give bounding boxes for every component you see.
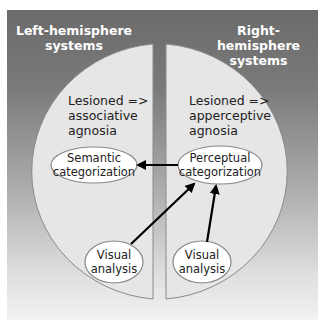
left-hemisphere-header: Left-hemisphere systems xyxy=(14,23,134,53)
visual-analysis-right-node: Visual analysis xyxy=(173,241,231,283)
right-hemisphere-header: Right-hemisphere systems xyxy=(196,23,321,68)
left-lesion-annotation: Lesioned => associative agnosia xyxy=(68,93,149,138)
perceptual-categorization-node: Perceptual categorization xyxy=(178,146,262,184)
visual-analysis-left-node: Visual analysis xyxy=(85,241,143,283)
right-lesion-annotation: Lesioned => apperceptive agnosia xyxy=(189,93,271,138)
semantic-categorization-node: Semantic categorization xyxy=(51,147,137,183)
